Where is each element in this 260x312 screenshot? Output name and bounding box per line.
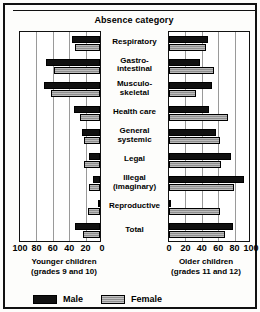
category-label-line2: systemic xyxy=(101,136,168,145)
bar-older-male xyxy=(169,129,216,136)
legend-label-male: Male xyxy=(63,294,83,304)
bar-younger-male xyxy=(82,129,100,136)
legend-item-male: Male xyxy=(33,294,83,304)
category-label: Respiratory xyxy=(101,38,168,47)
chart-title-text: Absence category xyxy=(94,15,173,25)
category-label: Musculo-skeletal xyxy=(101,80,168,97)
chart-frame: Absence category RespiratoryGastro-intes… xyxy=(3,3,257,309)
chart-legend: Male Female xyxy=(33,293,180,305)
legend-item-female: Female xyxy=(101,294,162,304)
bar-younger-female xyxy=(83,231,100,238)
bar-older-female xyxy=(169,184,234,191)
x-axis-younger: 100806040200 xyxy=(11,243,111,255)
axis-caption-older-line1: Older children xyxy=(151,257,260,267)
category-label: Reproductive xyxy=(101,202,168,211)
category-label-line1: Legal xyxy=(101,155,168,164)
bar-older-male xyxy=(169,36,208,43)
plot-area: RespiratoryGastro-intestinalMusculo-skel… xyxy=(19,31,250,242)
axis-caption-younger: Younger children (grades 9 and 10) xyxy=(9,257,119,276)
tick-label: 100 xyxy=(243,243,258,253)
bar-older-male xyxy=(169,59,200,66)
legend-divider xyxy=(13,308,255,309)
category-label-line2: intestinal xyxy=(101,65,168,74)
bar-older-female xyxy=(169,208,220,215)
tick-label: 20 xyxy=(81,243,91,253)
axis-caption-younger-line2: (grades 9 and 10) xyxy=(9,267,119,277)
bar-older-female xyxy=(169,44,206,51)
category-label-line1: Respiratory xyxy=(101,38,168,47)
category-label-line1: Reproductive xyxy=(101,202,168,211)
tick-label: 60 xyxy=(213,243,223,253)
x-axis-older: 020406080100 xyxy=(157,243,260,255)
category-label-line1: Total xyxy=(101,226,168,235)
chart-page: Absence category RespiratoryGastro-intes… xyxy=(0,0,260,312)
bar-older-female xyxy=(169,231,225,238)
tick-label: 0 xyxy=(99,243,104,253)
bar-younger-female xyxy=(84,137,100,144)
bar-older-female xyxy=(169,114,228,121)
axis-caption-older: Older children (grades 11 and 12) xyxy=(151,257,260,276)
category-label: Total xyxy=(101,226,168,235)
bar-older-male xyxy=(169,82,212,89)
bar-younger-female xyxy=(54,67,100,74)
bar-younger-female xyxy=(88,208,100,215)
category-label: Gastro-intestinal xyxy=(101,57,168,74)
tick-label: 40 xyxy=(197,243,207,253)
axis-caption-older-line2: (grades 11 and 12) xyxy=(151,267,260,277)
gridline xyxy=(36,32,37,241)
bar-younger-male xyxy=(89,153,100,160)
bar-older-female xyxy=(169,161,221,168)
bar-younger-female xyxy=(89,184,100,191)
tick-label: 20 xyxy=(180,243,190,253)
tick-label: 40 xyxy=(64,243,74,253)
bar-older-female xyxy=(169,90,196,97)
axis-caption-younger-line1: Younger children xyxy=(9,257,119,267)
tick-label: 100 xyxy=(12,243,27,253)
bar-younger-female xyxy=(51,90,100,97)
bar-younger-male xyxy=(75,223,100,230)
bar-younger-male xyxy=(44,82,100,89)
legend-swatch-female-icon xyxy=(101,295,125,304)
category-label-line1: Health care xyxy=(101,108,168,117)
tick-label: 80 xyxy=(230,243,240,253)
bar-older-male xyxy=(169,223,233,230)
category-label-line2: (imaginary) xyxy=(101,183,168,192)
bar-older-female xyxy=(169,137,220,144)
panel-older-children xyxy=(168,31,250,242)
bar-older-male xyxy=(169,153,231,160)
tick-label: 80 xyxy=(31,243,41,253)
bar-younger-female xyxy=(75,44,100,51)
category-label: Legal xyxy=(101,155,168,164)
tick-label: 60 xyxy=(48,243,58,253)
bar-younger-male xyxy=(74,106,100,113)
bar-older-male xyxy=(169,106,209,113)
bar-older-female xyxy=(169,67,214,74)
bar-younger-female xyxy=(84,161,100,168)
bar-older-male xyxy=(169,200,171,207)
bar-older-male xyxy=(169,176,244,183)
bar-younger-female xyxy=(80,114,100,121)
bar-younger-male xyxy=(93,176,100,183)
legend-swatch-male-icon xyxy=(33,295,57,304)
gridline xyxy=(235,32,236,241)
bar-younger-male xyxy=(72,36,100,43)
category-label: Health care xyxy=(101,108,168,117)
bar-younger-male xyxy=(46,59,100,66)
bar-younger-male xyxy=(98,200,100,207)
category-label-column: RespiratoryGastro-intestinalMusculo-skel… xyxy=(101,31,168,242)
category-label: Generalsystemic xyxy=(101,127,168,144)
panel-younger-children xyxy=(19,31,101,242)
category-label: Illegal(imaginary) xyxy=(101,174,168,191)
chart-title: Absence category xyxy=(10,10,258,30)
category-label-line2: skeletal xyxy=(101,89,168,98)
legend-label-female: Female xyxy=(131,294,162,304)
tick-label: 0 xyxy=(166,243,171,253)
